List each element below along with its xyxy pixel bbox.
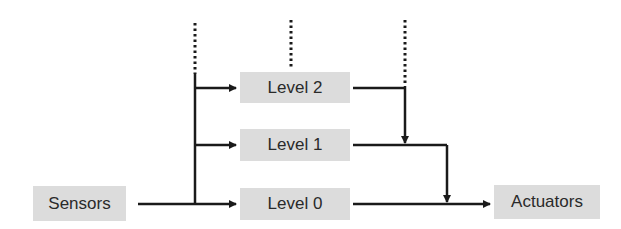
level-2-box: Level 2 (240, 72, 350, 103)
sensors-label: Sensors (48, 194, 110, 214)
level-0-box: Level 0 (240, 188, 350, 220)
actuators-box: Actuators (494, 185, 600, 219)
level-1-label: Level 1 (268, 135, 323, 155)
sensors-box: Sensors (33, 186, 126, 221)
level-2-label: Level 2 (268, 78, 323, 98)
level-1-box: Level 1 (240, 129, 350, 161)
layered-architecture-diagram: Sensors Level 2 Level 1 Level 0 Actuator… (0, 0, 621, 229)
level-0-label: Level 0 (268, 194, 323, 214)
actuators-label: Actuators (511, 192, 583, 212)
